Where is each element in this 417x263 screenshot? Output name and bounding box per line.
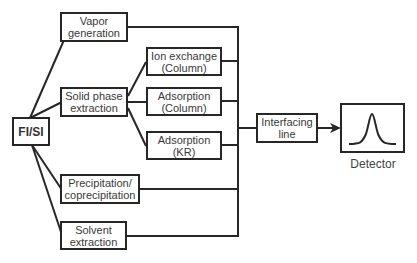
fi-si-label: FI/SI: [18, 126, 43, 138]
solid-phase-extraction-node: Solid phase extraction: [60, 87, 128, 117]
interfacing-line-node: Interfacing line: [256, 113, 318, 143]
detector-label: Detector: [336, 157, 410, 171]
precipitation-node: Precipitation/ coprecipitation: [60, 174, 140, 204]
peak-icon: [349, 114, 396, 144]
solid-phase-extraction-label: Solid phase extraction: [65, 90, 123, 114]
solvent-extraction-node: Solvent extraction: [60, 221, 127, 250]
adsorption-kr-label: Adsorption (KR): [158, 134, 211, 158]
ion-exchange-column-label: Ion exchange (Column): [151, 50, 217, 74]
adsorption-column-label: Adsorption (Column): [158, 90, 211, 114]
precipitation-label: Precipitation/ coprecipitation: [65, 177, 136, 201]
ion-exchange-column-node: Ion exchange (Column): [146, 47, 222, 76]
vapor-generation-label: Vapor generation: [68, 15, 120, 39]
interfacing-line-label: Interfacing line: [261, 116, 312, 140]
adsorption-kr-node: Adsorption (KR): [146, 131, 222, 160]
adsorption-column-node: Adsorption (Column): [146, 87, 222, 116]
fi-si-node: FI/SI: [12, 117, 50, 146]
diagram-canvas: FI/SI Vapor generation Solid phase extra…: [0, 0, 417, 263]
solvent-extraction-label: Solvent extraction: [70, 224, 118, 248]
vapor-generation-node: Vapor generation: [60, 12, 128, 42]
